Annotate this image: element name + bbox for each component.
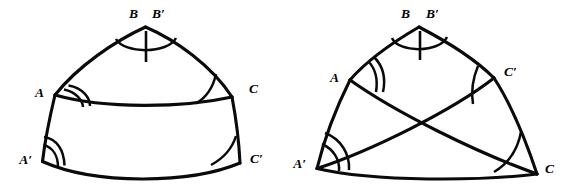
- vertex-label-A-prime: A′: [18, 152, 32, 167]
- vertex-label-C: C: [545, 161, 555, 176]
- vertex-label-A: A: [329, 70, 339, 85]
- edge-C-to-Cprime: [232, 97, 240, 163]
- vertex-label-C-prime: C′: [250, 151, 263, 166]
- vertex-label-C-prime: C′: [504, 64, 517, 79]
- edge-B-to-A: [350, 27, 419, 80]
- vertex-label-B: B: [400, 6, 410, 21]
- left-diagram-canvas: B B′ A C A′ C′: [0, 0, 285, 189]
- vertex-label-C: C: [249, 81, 259, 96]
- edge-B-to-Cprime: [419, 27, 494, 78]
- edge-B-to-Aprime: [55, 27, 146, 95]
- angle-arc-Cprime: [211, 136, 236, 165]
- arc-Aprime-to-C: [317, 169, 537, 180]
- vertex-label-B-prime: B′: [151, 6, 165, 21]
- crossed-triangles-figure: B B′ A C′ A′ C: [285, 0, 569, 189]
- vertex-label-A-prime: A′: [292, 156, 306, 171]
- angle-arc-Cprime: [472, 66, 478, 104]
- edge-B-to-Cprime: [146, 27, 233, 97]
- right-diagram-canvas: B B′ A C′ A′ C: [285, 0, 569, 189]
- edge-A-to-Aprime: [317, 80, 350, 169]
- vertex-label-B: B: [128, 6, 138, 21]
- vertex-label-A: A: [34, 85, 44, 100]
- angle-arc-A-inner: [369, 62, 377, 92]
- arc-Aprime-to-Cprime: [43, 162, 241, 179]
- vertex-label-B-prime: B′: [425, 6, 439, 21]
- figure-plate: B B′ A C A′ C′: [0, 0, 569, 189]
- nested-triangles-figure: B B′ A C A′ C′: [0, 0, 285, 189]
